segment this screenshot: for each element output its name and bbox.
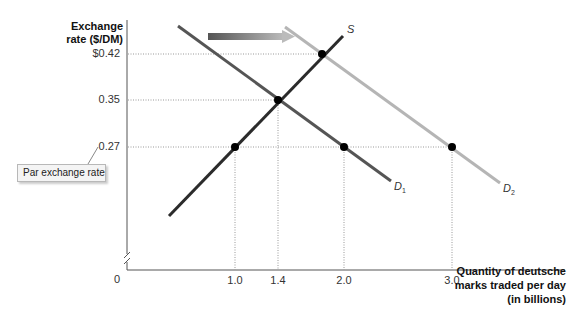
supply-label: S xyxy=(347,23,354,35)
d2-label: D2 xyxy=(503,182,515,196)
y-axis-label-line1: Exchange xyxy=(66,20,123,33)
d2-label-text: D xyxy=(503,182,511,194)
x-axis-label-line3: (in billions) xyxy=(438,292,566,306)
d2-label-subscript: 2 xyxy=(511,189,515,196)
x-tick-14: 1.4 xyxy=(263,274,293,286)
equilibrium-points xyxy=(231,50,456,151)
d1-label: D1 xyxy=(394,180,406,194)
y-axis-label: Exchange rate ($/DM) xyxy=(66,20,123,46)
shift-arrow-shaft xyxy=(208,33,284,40)
x-tick-20: 2.0 xyxy=(329,274,359,286)
guide-lines xyxy=(128,54,452,270)
demand-curve-d1 xyxy=(178,26,391,181)
origin-label: 0 xyxy=(114,273,120,285)
y-axis-label-line2: rate ($/DM) xyxy=(66,33,123,46)
x-axis-label: Quantity of deutsche marks traded per da… xyxy=(438,264,566,306)
d1-label-subscript: 1 xyxy=(402,187,406,194)
x-axis-label-line1: Quantity of deutsche xyxy=(438,264,566,278)
y-tick-042: $0.42 xyxy=(60,47,120,59)
par-exchange-rate-callout: Par exchange rate xyxy=(17,164,106,182)
y-tick-027: 0.27 xyxy=(60,140,120,152)
x-tick-10: 1.0 xyxy=(220,274,250,286)
demand-curve-d2 xyxy=(285,27,500,183)
y-tick-035: 0.35 xyxy=(60,93,120,105)
x-axis-label-line2: marks traded per day xyxy=(438,278,566,292)
d1-label-text: D xyxy=(394,180,402,192)
